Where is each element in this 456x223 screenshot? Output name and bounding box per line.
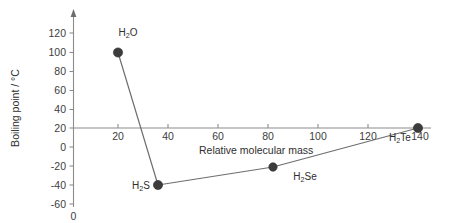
data-point-h2te[interactable] (413, 123, 422, 132)
y-tick-label-60: 60 (54, 84, 66, 96)
data-point-h2o[interactable] (113, 48, 122, 57)
x-tick-label-40: 40 (162, 130, 174, 142)
data-label-h2s: H2S (132, 180, 150, 193)
y-axis-title: Boiling point / °C (9, 69, 21, 147)
data-label-h2te: H2Te (389, 132, 411, 145)
data-point-h2se[interactable] (269, 163, 277, 171)
y-tick-label-neg40: -40 (51, 179, 66, 191)
data-label-h2o-base: H (118, 27, 125, 38)
y-tick-label-neg20: -20 (51, 160, 66, 172)
data-label-h2s-base: H (132, 180, 139, 191)
y-axis-arrow-icon (71, 9, 77, 17)
data-label-h2te-base: H (389, 132, 396, 143)
y-tick-label-neg60: -60 (51, 198, 66, 210)
x-axis-ticks (118, 124, 418, 128)
data-label-h2s-tail: S (143, 180, 150, 191)
data-label-h2o: H2O (118, 27, 137, 40)
data-label-h2se-tail: Se (305, 171, 318, 182)
data-label-h2o-tail: O (130, 27, 138, 38)
data-label-h2se: H2Se (293, 171, 317, 184)
y-tick-label-0: 0 (60, 141, 66, 153)
y-tick-label-120: 120 (48, 27, 66, 39)
chart-plot-area: 120 100 80 60 40 20 0 -20 -40 -60 0 20 4… (0, 0, 456, 223)
data-label-h2se-base: H (293, 171, 300, 182)
origin-label: 0 (71, 210, 77, 222)
x-tick-label-80: 80 (262, 130, 274, 142)
y-tick-label-80: 80 (54, 65, 66, 77)
y-tick-label-20: 20 (54, 122, 66, 134)
y-tick-label-100: 100 (48, 46, 66, 58)
y-tick-label-40: 40 (54, 103, 66, 115)
series-line-group16-hydrides (118, 53, 418, 186)
data-point-h2s[interactable] (153, 180, 162, 189)
x-axis-title: Relative molecular mass (199, 144, 313, 156)
data-label-h2te-tail: Te (400, 132, 411, 143)
x-tick-label-20: 20 (112, 130, 124, 142)
boiling-point-chart: 120 100 80 60 40 20 0 -20 -40 -60 0 20 4… (0, 0, 456, 223)
x-tick-label-100: 100 (309, 130, 327, 142)
x-tick-label-60: 60 (212, 130, 224, 142)
y-axis-ticks (70, 33, 74, 204)
